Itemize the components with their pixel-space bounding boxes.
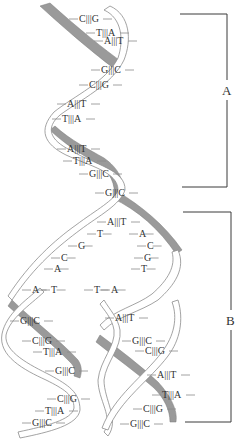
base-pair-label: A (32, 284, 40, 295)
base-pair-label: T|||A (73, 155, 93, 166)
base-pair-label: G|||C (55, 365, 75, 376)
base-pair-label: A (111, 284, 119, 295)
base-pair-label: A|||T (157, 369, 176, 380)
base-pair-label: A (54, 263, 62, 274)
base-pair-label: G|||C (101, 64, 121, 75)
base-pair-label: C (61, 252, 68, 263)
base-pair-label: G (144, 252, 151, 263)
base-pair-label: C|||G (145, 345, 165, 356)
base-pair-label: T (97, 228, 103, 239)
base-pair-label: A (139, 228, 147, 239)
base-pair-label: C|||G (32, 335, 52, 346)
base-pair-label: G|||C (89, 168, 109, 179)
base-pair-label: C|||G (143, 403, 163, 414)
base-pair-label: T (51, 284, 57, 295)
base-pair-label: G|||C (32, 417, 52, 428)
base-pair-label: C|||G (89, 79, 109, 90)
base-pair-label: A|||T (107, 216, 126, 227)
base-pair-label: T (94, 284, 100, 295)
base-pair-label: A|||T (67, 143, 86, 154)
base-pair-label: T|||A (45, 405, 65, 416)
base-pair-label: A|||T (67, 98, 86, 109)
base-pair-label: C|||G (79, 13, 99, 24)
base-pair-label: G|||C (105, 187, 125, 198)
base-pair-label: A|||T (115, 312, 134, 323)
base-pair-label: T|||A (162, 389, 182, 400)
base-pair-label: G|||C (20, 315, 40, 326)
base-pair-label: C|||G (57, 393, 77, 404)
base-pair-label: G|||C (130, 418, 150, 429)
base-pair-label: G (78, 240, 85, 251)
base-pairs-layer: C|||GT|||AA|||TG|||CC|||GA|||TT|||AA|||T… (0, 0, 238, 442)
dna-replication-diagram: A B C|||GT|||AA|||TG|||CC|||GA|||TT|||AA… (0, 0, 238, 442)
base-pair-label: C (147, 240, 154, 251)
base-pair-label: T|||A (62, 113, 82, 124)
base-pair-label: A|||T (104, 35, 123, 46)
base-pair-label: T (141, 263, 147, 274)
base-pair-label: T|||A (43, 346, 63, 357)
